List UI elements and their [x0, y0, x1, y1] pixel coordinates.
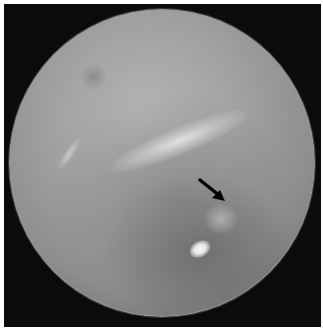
reflection-streak [53, 135, 84, 174]
tympanic-membrane-view [9, 9, 315, 317]
dark-patch [81, 64, 107, 90]
light-reflex [186, 237, 213, 262]
arrow-icon [198, 178, 228, 204]
lesion-highlight [204, 204, 238, 234]
image-frame [4, 4, 321, 327]
malleus-handle-highlight [104, 100, 254, 182]
